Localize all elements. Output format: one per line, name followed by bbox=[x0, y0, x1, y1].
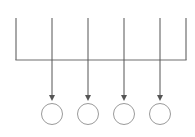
node-circle-1 bbox=[42, 104, 63, 125]
node-circle-3 bbox=[114, 104, 135, 125]
branch-2-arrowhead-icon bbox=[85, 95, 91, 101]
node-circle-2 bbox=[78, 104, 99, 125]
node-circle-group bbox=[42, 104, 171, 125]
branch-1-arrowhead-icon bbox=[49, 95, 55, 101]
branch-4-arrowhead-icon bbox=[157, 95, 163, 101]
fanout-bus-diagram bbox=[0, 0, 195, 137]
diagram-canvas bbox=[0, 0, 195, 137]
branch-3-arrowhead-icon bbox=[121, 95, 127, 101]
bus-bracket bbox=[15, 18, 186, 60]
node-circle-4 bbox=[150, 104, 171, 125]
